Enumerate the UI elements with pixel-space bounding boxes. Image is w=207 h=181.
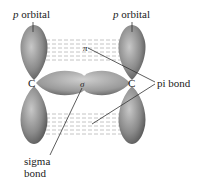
sigma-bond-leader [50,88,82,155]
right-p-orbital-upper-lobe [119,25,146,80]
carbon-right-label: C [128,77,135,89]
orbital-text: orbital [19,8,50,20]
sigma-bond-label-line1: sigma [24,155,50,167]
pi-bond-label: pi bond [157,77,190,89]
orbital-text: orbital [119,8,150,20]
carbon-left-label: C [28,77,35,89]
sigma-symbol: σ [80,78,84,90]
p-orbital-right-label: p orbital [113,8,150,20]
right-p-orbital-lower-lobe [119,86,146,144]
left-p-orbital-lower-lobe [21,86,48,144]
p-orbital-left-label: p orbital [13,8,50,20]
sigma-bond-label-line2: bond [24,167,46,179]
pi-bond-diagram [0,0,207,181]
left-p-orbital-upper-lobe [21,25,48,80]
pi-overlap-bottom [46,114,122,134]
pi-symbol-top: π [83,42,88,54]
